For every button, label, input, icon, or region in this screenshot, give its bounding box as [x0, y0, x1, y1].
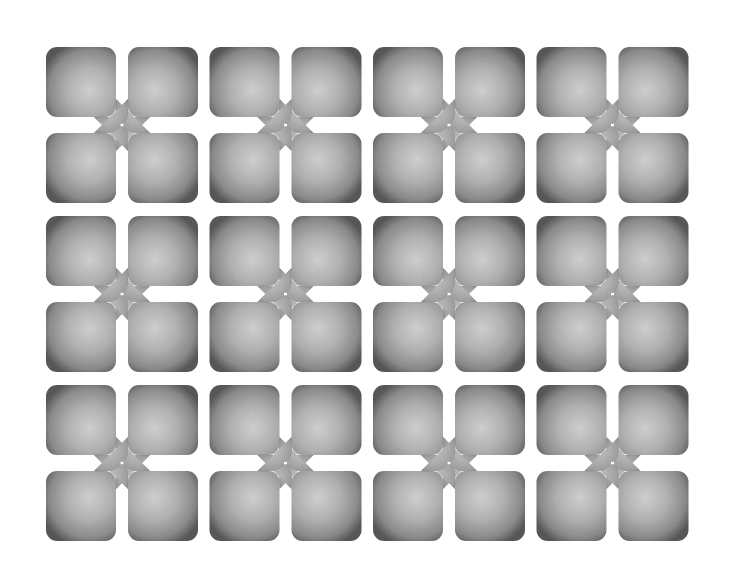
rounded-square [373, 47, 443, 117]
rounded-square [537, 133, 607, 203]
rounded-square [455, 216, 525, 286]
rounded-square [292, 133, 362, 203]
rounded-square [210, 302, 280, 372]
rounded-square [46, 133, 116, 203]
rounded-square [537, 216, 607, 286]
rounded-square [455, 302, 525, 372]
rounded-square [128, 471, 198, 541]
rounded-square [128, 133, 198, 203]
tile-group [373, 385, 525, 541]
rounded-square [619, 302, 689, 372]
rounded-square [292, 216, 362, 286]
rounded-square [46, 302, 116, 372]
tile-group [373, 47, 525, 203]
rounded-square [46, 385, 116, 455]
tile-group [210, 47, 362, 203]
rounded-square [619, 216, 689, 286]
rounded-square [373, 133, 443, 203]
rounded-square [128, 216, 198, 286]
rounded-square [373, 385, 443, 455]
tile-group [46, 385, 198, 541]
rounded-square [292, 385, 362, 455]
tile-group [46, 216, 198, 372]
rounded-square [537, 471, 607, 541]
rounded-square [373, 471, 443, 541]
tile-group [46, 47, 198, 203]
tile-groups [46, 47, 689, 541]
rounded-square [537, 385, 607, 455]
tile-group [373, 216, 525, 372]
rounded-square [455, 385, 525, 455]
rounded-square [619, 47, 689, 117]
tile-pattern-canvas [0, 0, 731, 578]
rounded-square [619, 471, 689, 541]
rounded-square [46, 471, 116, 541]
rounded-square [292, 47, 362, 117]
rounded-square [619, 133, 689, 203]
rounded-square [537, 47, 607, 117]
rounded-square [46, 47, 116, 117]
rounded-square [210, 133, 280, 203]
quatrefoil-tile-pattern [0, 0, 731, 578]
rounded-square [210, 471, 280, 541]
rounded-square [128, 385, 198, 455]
rounded-square [210, 385, 280, 455]
rounded-square [373, 302, 443, 372]
rounded-square [455, 47, 525, 117]
rounded-square [537, 302, 607, 372]
rounded-square [455, 133, 525, 203]
rounded-square [292, 302, 362, 372]
tile-group [537, 47, 689, 203]
tile-group [210, 216, 362, 372]
rounded-square [210, 47, 280, 117]
rounded-square [46, 216, 116, 286]
rounded-square [455, 471, 525, 541]
tile-group [537, 216, 689, 372]
rounded-square [128, 302, 198, 372]
rounded-square [373, 216, 443, 286]
tile-group [537, 385, 689, 541]
tile-group [210, 385, 362, 541]
rounded-square [619, 385, 689, 455]
rounded-square [292, 471, 362, 541]
rounded-square [128, 47, 198, 117]
rounded-square [210, 216, 280, 286]
